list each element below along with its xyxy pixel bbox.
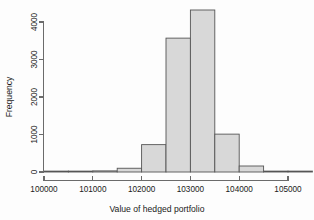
histogram-bar xyxy=(288,171,312,172)
histogram-bar xyxy=(215,134,239,172)
histogram-bar xyxy=(93,171,117,172)
y-axis-title: Frequency xyxy=(4,76,14,117)
x-axis xyxy=(44,176,288,181)
x-tick-labels: 100000101000102000103000104000105000 xyxy=(30,185,302,194)
histogram-bar xyxy=(44,171,68,172)
x-tick-label: 101000 xyxy=(79,185,107,194)
histogram-bar xyxy=(166,38,190,172)
plot-area: 100000101000102000103000104000105000 010… xyxy=(0,0,314,220)
y-tick-label: 0 xyxy=(30,169,39,174)
histogram-bar xyxy=(264,171,288,172)
y-tick-label: 4000 xyxy=(30,12,39,31)
y-tick-labels: 01000200030004000 xyxy=(30,12,39,174)
histogram-bar xyxy=(142,145,166,172)
x-axis-title: Value of hedged portfolio xyxy=(110,204,205,214)
y-tick-label: 3000 xyxy=(30,50,39,69)
histogram-bar xyxy=(117,168,141,172)
y-tick-label: 2000 xyxy=(30,87,39,106)
x-tick-label: 104000 xyxy=(226,185,254,194)
histogram-bar xyxy=(68,171,92,172)
x-tick-label: 105000 xyxy=(274,185,302,194)
histogram-bar xyxy=(239,166,263,172)
histogram-figure: 100000101000102000103000104000105000 010… xyxy=(0,0,314,220)
chart-svg: 100000101000102000103000104000105000 010… xyxy=(0,0,314,220)
bars-group xyxy=(44,10,312,172)
x-tick-label: 102000 xyxy=(128,185,156,194)
y-axis xyxy=(39,22,44,172)
y-tick-label: 1000 xyxy=(30,125,39,144)
x-tick-label: 103000 xyxy=(177,185,205,194)
x-tick-label: 100000 xyxy=(30,185,58,194)
histogram-bar xyxy=(190,10,214,172)
